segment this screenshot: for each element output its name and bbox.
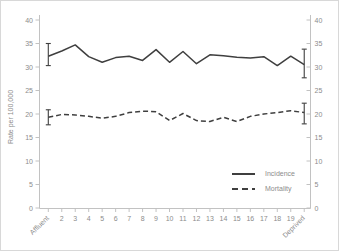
left-y-tick-label: 20 — [25, 111, 33, 118]
x-tick-label: 15 — [233, 215, 241, 222]
legend-label-incidence: Incidence — [265, 170, 295, 177]
right-y-tick-label: 5 — [315, 181, 319, 188]
left-y-tick-label: 5 — [29, 181, 33, 188]
right-y-tick-label: 0 — [315, 205, 319, 212]
x-tick-label: 4 — [87, 215, 91, 222]
chart-figure: 00551010151520202525303035354040Affluent… — [0, 0, 339, 251]
right-y-tick-label: 25 — [315, 87, 323, 94]
right-y-tick-label: 10 — [315, 158, 323, 165]
right-y-tick-label: 15 — [315, 134, 323, 141]
x-tick-label: 13 — [206, 215, 214, 222]
chart-canvas: 00551010151520202525303035354040Affluent… — [1, 1, 339, 251]
x-tick-label: 3 — [73, 215, 77, 222]
right-y-tick-label: 40 — [315, 17, 323, 24]
legend-item-incidence: Incidence — [232, 166, 295, 181]
left-y-tick-label: 15 — [25, 134, 33, 141]
legend-item-mortality: Mortality — [232, 181, 295, 196]
x-tick-label: 5 — [100, 215, 104, 222]
legend-label-mortality: Mortality — [265, 185, 291, 192]
right-y-tick-label: 35 — [315, 40, 323, 47]
x-tick-label: 10 — [166, 215, 174, 222]
y-axis-label: Rate per 100,000 — [6, 87, 16, 147]
incidence-line-swatch — [232, 173, 255, 175]
left-y-tick-label: 35 — [25, 40, 33, 47]
x-tick-label: 11 — [179, 215, 186, 222]
left-y-tick-label: 0 — [29, 205, 33, 212]
x-tick-label: 8 — [141, 215, 145, 222]
right-y-tick-label: 20 — [315, 111, 323, 118]
x-tick-label: 7 — [127, 215, 131, 222]
left-y-tick-label: 40 — [25, 17, 33, 24]
x-tick-label: 18 — [273, 215, 281, 222]
x-tick-label: 17 — [260, 215, 268, 222]
legend: Incidence Mortality — [232, 166, 295, 196]
x-tick-label: 12 — [193, 215, 201, 222]
mortality-line-swatch — [232, 188, 255, 190]
incidence-line — [48, 45, 304, 66]
x-tick-label: 14 — [220, 215, 228, 222]
right-y-tick-label: 30 — [315, 64, 323, 71]
mortality-line — [48, 111, 304, 122]
x-tick-label: 16 — [246, 215, 254, 222]
left-y-tick-label: 25 — [25, 87, 33, 94]
x-tick-label: 2 — [60, 215, 64, 222]
x-tick-label-affluent: Affluent — [28, 214, 50, 236]
left-y-tick-label: 30 — [25, 64, 33, 71]
left-y-tick-label: 10 — [25, 158, 33, 165]
x-tick-label: 6 — [114, 215, 118, 222]
x-tick-label: 9 — [154, 215, 158, 222]
